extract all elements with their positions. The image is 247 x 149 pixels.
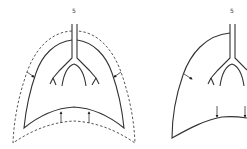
left-side-arrow-icon (27, 72, 34, 77)
left-bronchi (50, 64, 99, 86)
left-label: 5 (72, 7, 76, 14)
side-arrow-icon (184, 74, 192, 79)
right-panel: 5 (172, 7, 247, 138)
right-trachea (211, 24, 247, 78)
left-lung-outline (24, 40, 124, 128)
right-label: 5 (230, 7, 234, 14)
left-trachea (53, 24, 96, 78)
left-panel: 5 (13, 7, 135, 143)
lung-diagram: 5 5 (0, 0, 247, 149)
right-lung-outline (172, 33, 247, 138)
right-side-arrow-icon (114, 72, 121, 77)
